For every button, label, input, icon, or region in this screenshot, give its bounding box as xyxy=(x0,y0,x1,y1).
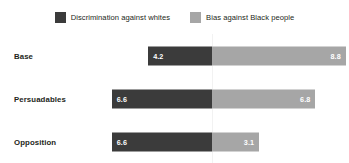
bar-bias-opposition: 3.1 xyxy=(212,132,259,151)
legend-label-discrimination: Discrimination against whites xyxy=(71,13,170,22)
chart-row-base: Base 4.2 8.8 xyxy=(0,34,349,77)
chart-row-opposition: Opposition 6.6 3.1 xyxy=(0,120,349,163)
plot-area: Base 4.2 8.8 Persuadables 6.6 6.8 xyxy=(0,34,349,163)
chart-legend: Discrimination against whites Bias again… xyxy=(0,8,349,26)
bar-value-discrimination-opposition: 6.6 xyxy=(112,137,132,146)
bar-value-bias-persuadables: 6.8 xyxy=(295,94,315,103)
legend-label-bias: Bias against Black people xyxy=(206,13,294,22)
diverging-bar-chart: Discrimination against whites Bias again… xyxy=(0,0,349,163)
legend-swatch-discrimination-icon xyxy=(55,12,66,23)
bar-group-persuadables: 6.6 6.8 xyxy=(0,89,349,108)
bar-discrimination-base: 4.2 xyxy=(148,46,212,65)
bar-value-bias-opposition: 3.1 xyxy=(239,137,259,146)
bar-value-discrimination-persuadables: 6.6 xyxy=(112,94,132,103)
bar-value-bias-base: 8.8 xyxy=(325,51,345,60)
bar-bias-persuadables: 6.8 xyxy=(212,89,315,108)
legend-swatch-bias-icon xyxy=(190,12,201,23)
chart-row-persuadables: Persuadables 6.6 6.8 xyxy=(0,77,349,120)
bar-discrimination-persuadables: 6.6 xyxy=(112,89,212,108)
bar-bias-base: 8.8 xyxy=(212,46,346,65)
bar-discrimination-opposition: 6.6 xyxy=(112,132,212,151)
bar-group-opposition: 6.6 3.1 xyxy=(0,132,349,151)
legend-item-discrimination: Discrimination against whites xyxy=(55,12,170,23)
bar-group-base: 4.2 8.8 xyxy=(0,46,349,65)
legend-item-bias: Bias against Black people xyxy=(190,12,294,23)
bar-value-discrimination-base: 4.2 xyxy=(148,51,168,60)
